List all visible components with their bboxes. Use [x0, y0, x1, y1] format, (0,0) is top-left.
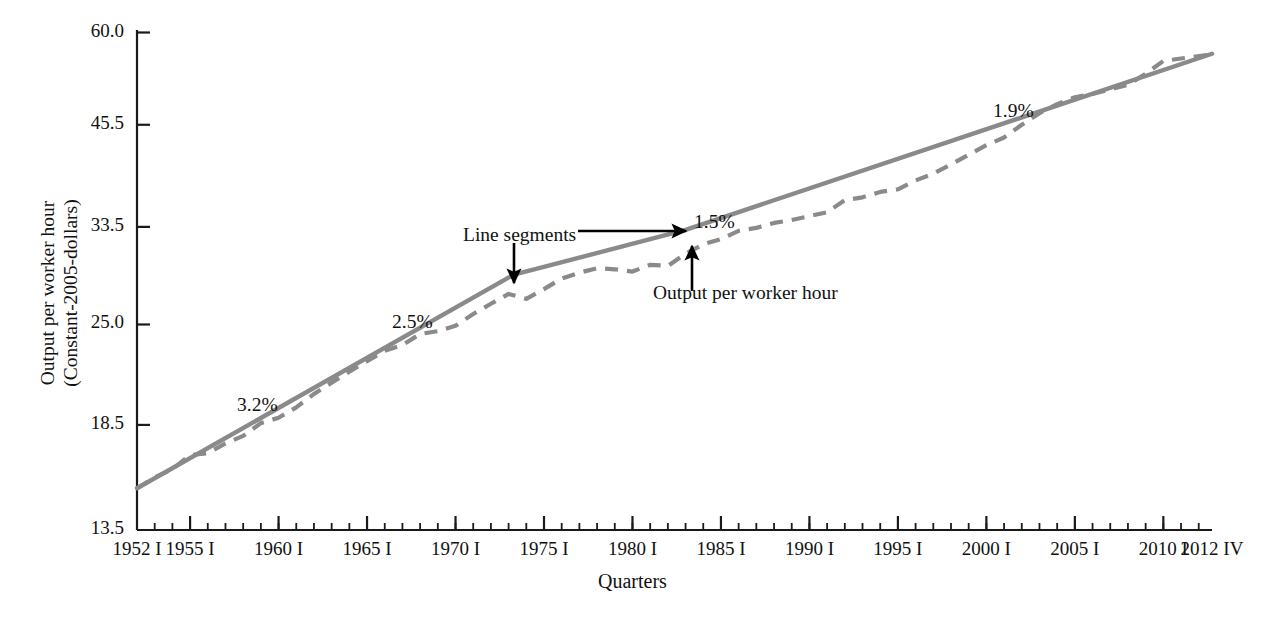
series-line-segments — [137, 54, 1212, 489]
x-tick-label: 2012 IV — [1157, 538, 1267, 560]
annotation-rate-2: 2.5% — [392, 311, 433, 333]
y-tick-label: 13.5 — [62, 517, 124, 539]
annotation-rate-3: 1.5% — [694, 211, 735, 233]
axes-lines — [137, 30, 1212, 530]
y-axis-ticks — [137, 33, 150, 425]
x-axis-major-ticks — [190, 516, 1163, 530]
x-axis-minor-ticks — [137, 523, 1199, 530]
y-axis-title-line1: Output per worker hour — [36, 128, 59, 458]
annotation-rate-1: 3.2% — [237, 394, 278, 416]
y-tick-label: 60.0 — [62, 20, 124, 42]
annotation-callout-2: Output per worker hour — [653, 282, 838, 304]
annotation-callout-1: Line segments — [463, 224, 576, 246]
annotation-rate-4: 1.9% — [993, 100, 1034, 122]
y-axis-title-line2: (Constant-2005-dollars) — [59, 128, 82, 458]
y-axis-title: Output per worker hour (Constant-2005-do… — [36, 128, 82, 458]
series-output-per-worker-hour — [137, 54, 1212, 488]
x-axis-title: Quarters — [598, 570, 667, 593]
chart-figure: 60.045.533.525.018.513.5 1952 I1955 I196… — [0, 0, 1288, 620]
plot-area — [0, 0, 1288, 620]
